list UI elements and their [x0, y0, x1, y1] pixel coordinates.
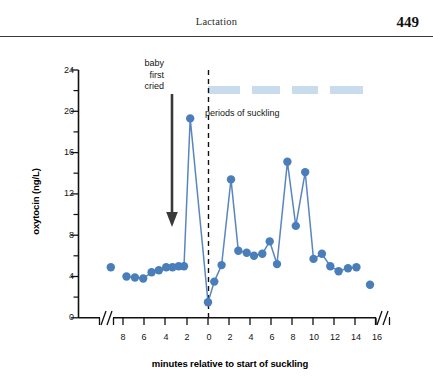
data-point — [131, 273, 139, 281]
data-point — [204, 298, 212, 306]
data-point — [139, 274, 147, 282]
data-point — [283, 158, 291, 166]
figure-page: Lactation 449 oxytocin (ng/L) minutes re… — [0, 0, 433, 384]
running-head-title: Lactation — [0, 16, 433, 27]
data-point — [243, 249, 251, 257]
header-rule — [0, 36, 433, 37]
data-point — [352, 263, 360, 271]
data-point — [326, 262, 334, 270]
data-point — [122, 272, 130, 280]
data-point-markers — [107, 114, 375, 306]
oxytocin-suckling-chart: oxytocin (ng/L) minutes relative to star… — [0, 46, 433, 384]
data-point — [366, 281, 374, 289]
data-point — [301, 168, 309, 176]
data-line — [127, 118, 357, 302]
suckling-bar-3 — [292, 86, 318, 94]
suckling-bar-4 — [330, 86, 363, 94]
data-point — [107, 263, 115, 271]
data-point — [258, 250, 266, 258]
data-point — [186, 114, 194, 122]
suckling-bar-1 — [208, 86, 240, 94]
data-point — [147, 268, 155, 276]
data-point — [334, 267, 342, 275]
baby-first-cried-arrow-icon — [166, 94, 178, 227]
data-point — [318, 250, 326, 258]
data-point — [309, 255, 317, 263]
page-number: 449 — [397, 14, 420, 31]
suckling-period-bars — [208, 86, 363, 94]
data-point — [292, 222, 300, 230]
data-point — [217, 261, 225, 269]
data-point — [155, 266, 163, 274]
data-point — [273, 260, 281, 268]
data-point — [250, 252, 258, 260]
data-point — [266, 237, 274, 245]
y-axis — [71, 70, 79, 318]
data-point — [227, 175, 235, 183]
running-head: Lactation 449 — [0, 16, 433, 38]
data-point — [344, 264, 352, 272]
data-point — [210, 277, 218, 285]
suckling-bar-2 — [252, 86, 280, 94]
x-axis — [79, 311, 391, 325]
data-point — [234, 247, 242, 255]
plot-area — [0, 46, 433, 384]
data-point — [180, 262, 188, 270]
